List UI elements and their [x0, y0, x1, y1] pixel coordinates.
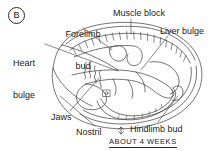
scale-arrow-icon: [119, 127, 124, 134]
label-nostril: Nostril: [76, 127, 102, 137]
figure-caption: ABOUT 4 WEEKS: [109, 137, 177, 148]
label-jaws: Jaws: [51, 112, 72, 122]
label-muscle-block: Muscle block: [113, 8, 165, 18]
forelimb-bud-shape: [109, 46, 126, 62]
label-heart-bulge-line2: bulge: [13, 90, 35, 101]
leader-liver-bulge: [141, 36, 168, 70]
label-liver-bulge: Liver bulge: [160, 26, 204, 36]
label-forelimb-bud-line1: Forelimb: [57, 29, 109, 40]
panel-letter-b: B: [8, 7, 25, 24]
label-forelimb-bud: Forelimb bud: [57, 8, 109, 92]
label-heart-bulge: Heart bulge: [13, 37, 35, 121]
embryo-diagram-figure: B Forelimb bud Muscle block Liver bulge …: [0, 0, 220, 151]
label-forelimb-bud-line2: bud: [57, 61, 109, 72]
leader-hindlimb-bud: [158, 96, 178, 122]
label-hindlimb-bud: Hindlimb bud: [130, 124, 183, 134]
label-heart-bulge-line1: Heart: [13, 58, 35, 69]
